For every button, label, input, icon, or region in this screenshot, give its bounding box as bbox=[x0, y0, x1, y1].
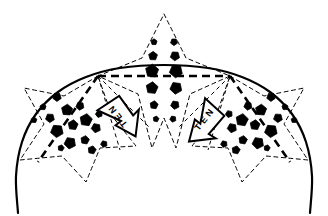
diagram-canvas: NETNET bbox=[0, 0, 328, 216]
net-lobe-diagram: NETNET bbox=[0, 0, 328, 216]
canvas-background bbox=[0, 0, 328, 216]
